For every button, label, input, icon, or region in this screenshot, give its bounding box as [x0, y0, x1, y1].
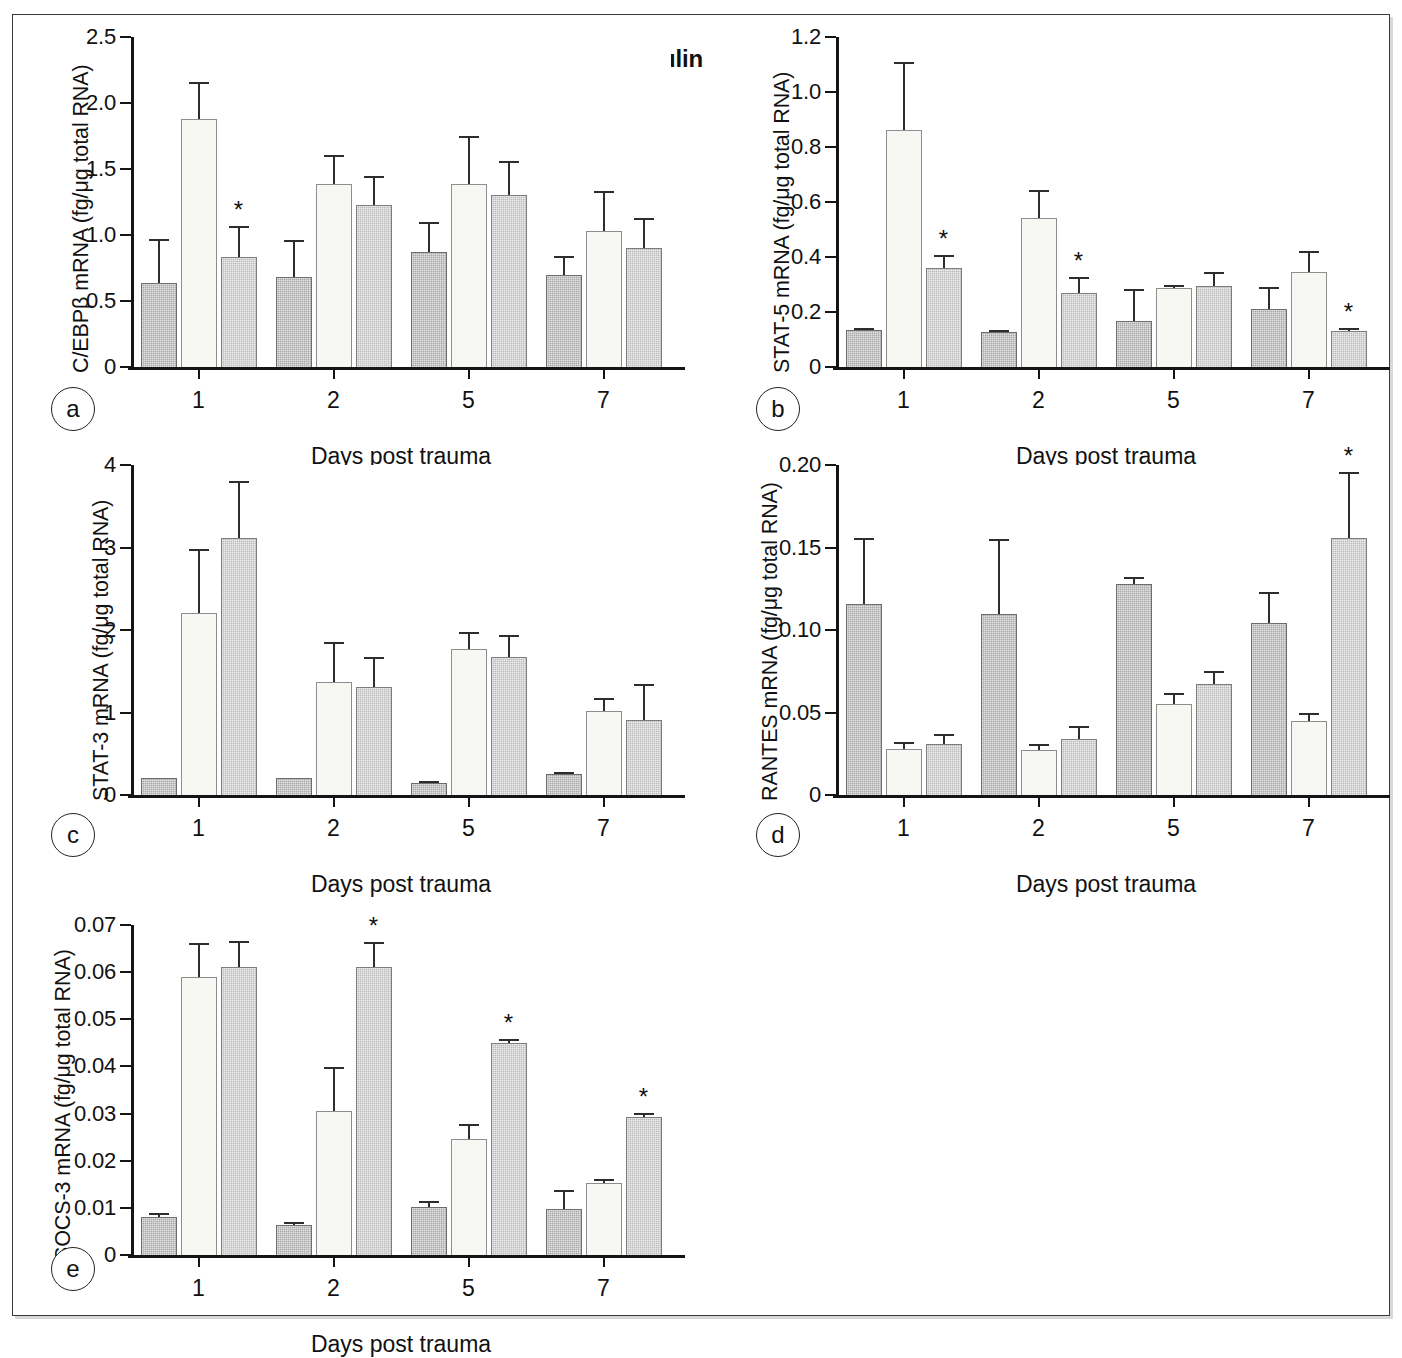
y-axis-line [836, 37, 839, 367]
error-bar [1348, 328, 1350, 331]
significance-star: * [639, 1085, 648, 1109]
error-bar [1038, 744, 1040, 751]
x-axis-tick [903, 795, 905, 807]
error-bar [333, 642, 335, 682]
y-axis-tick [825, 256, 836, 258]
chart-panel-e: 00.010.020.030.040.050.060.07SOCS-3 mRNA… [131, 925, 671, 1255]
y-axis-tick [825, 794, 836, 796]
panel-letter-e: e [51, 1247, 95, 1291]
x-axis-tick [198, 795, 200, 807]
bar-saline-day2 [316, 184, 352, 367]
x-axis-tick-label: 7 [1302, 815, 1315, 842]
x-axis-tick-label: 1 [897, 815, 910, 842]
error-bar [1348, 472, 1350, 538]
bar-insulin-day5 [491, 657, 527, 795]
error-bar [1308, 713, 1310, 721]
bar-insulin-day1 [221, 967, 257, 1255]
bar-saline-day1 [886, 749, 922, 795]
y-axis-tick [120, 971, 131, 973]
error-bar [998, 330, 1000, 332]
y-axis-tick-label: 0.04 [74, 1053, 116, 1079]
y-axis-tick-label: 0.02 [74, 1148, 116, 1174]
y-axis-tick [825, 146, 836, 148]
bar-insulin-day5 [491, 1043, 527, 1255]
bar-saline-day7 [586, 1183, 622, 1255]
y-axis-tick-label: 0.01 [74, 1195, 116, 1221]
x-axis-line [128, 367, 685, 370]
bar-normal-day2 [276, 778, 312, 795]
bar-insulin-day5 [1196, 684, 1232, 795]
y-axis-tick-label: 0.07 [74, 912, 116, 938]
y-axis-tick [120, 1065, 131, 1067]
y-axis-tick-label: 0.6 [791, 189, 821, 215]
x-axis-tick [1038, 795, 1040, 807]
x-axis-tick [903, 367, 905, 379]
error-bar [603, 1179, 605, 1183]
bar-normal-day7 [546, 774, 582, 795]
x-axis-tick [468, 1255, 470, 1267]
error-bar [643, 1113, 645, 1117]
bar-normal-day5 [411, 252, 447, 367]
bar-insulin-day2 [356, 205, 392, 367]
error-bar [373, 176, 375, 205]
y-axis-tick-label: 0.10 [779, 617, 821, 643]
y-axis-tick [120, 102, 131, 104]
error-bar [373, 942, 375, 968]
x-axis-tick-label: 2 [327, 815, 340, 842]
error-bar [998, 539, 1000, 613]
error-bar [293, 240, 295, 277]
y-axis-tick [120, 547, 131, 549]
bar-insulin-day5 [491, 195, 527, 367]
y-axis-tick [120, 464, 131, 466]
error-bar [198, 943, 200, 977]
bar-normal-day1 [846, 330, 882, 367]
x-axis-tick [333, 795, 335, 807]
x-axis-tick-label: 1 [192, 387, 205, 414]
error-bar [293, 1222, 295, 1225]
y-axis-title: RANTES mRNA (fg/μg total RNA) [758, 482, 783, 801]
bar-saline-day2 [316, 1111, 352, 1255]
x-axis-tick-label: 1 [192, 815, 205, 842]
y-axis-tick [120, 1018, 131, 1020]
error-bar [238, 226, 240, 258]
y-axis-tick [825, 629, 836, 631]
y-axis-tick [120, 36, 131, 38]
y-axis-tick [120, 300, 131, 302]
x-axis-tick [603, 1255, 605, 1267]
y-axis-line [131, 925, 134, 1255]
y-axis-tick-label: 0.05 [74, 1006, 116, 1032]
y-axis-tick-label: 0 [104, 1242, 116, 1268]
bar-normal-day5 [411, 1207, 447, 1255]
significance-star: * [369, 914, 378, 938]
error-bar [1213, 272, 1215, 285]
panel-letter-d: d [756, 813, 800, 857]
bar-saline-day7 [586, 711, 622, 795]
bar-saline-day5 [1156, 704, 1192, 795]
error-bar [863, 538, 865, 604]
error-bar [468, 1124, 470, 1139]
bar-insulin-day2 [356, 967, 392, 1255]
bar-saline-day5 [451, 649, 487, 795]
error-bar [943, 255, 945, 268]
error-bar [563, 1190, 565, 1209]
bar-insulin-day7 [626, 1117, 662, 1255]
x-axis-tick [198, 367, 200, 379]
x-axis-tick [333, 1255, 335, 1267]
y-axis-tick [825, 201, 836, 203]
bar-saline-day1 [181, 977, 217, 1255]
bar-insulin-day2 [356, 687, 392, 795]
y-axis-tick [120, 924, 131, 926]
y-axis-tick-label: 0 [809, 354, 821, 380]
error-bar [198, 549, 200, 613]
error-bar [333, 155, 335, 184]
y-axis-tick [120, 1160, 131, 1162]
bar-saline-day7 [586, 231, 622, 367]
y-axis-tick [120, 1254, 131, 1256]
panel-letter-c: c [51, 813, 95, 857]
error-bar [563, 772, 565, 774]
x-axis-tick-label: 7 [597, 815, 610, 842]
error-bar [643, 684, 645, 719]
x-axis-tick [333, 367, 335, 379]
bar-saline-day1 [886, 130, 922, 367]
y-axis-tick [825, 464, 836, 466]
